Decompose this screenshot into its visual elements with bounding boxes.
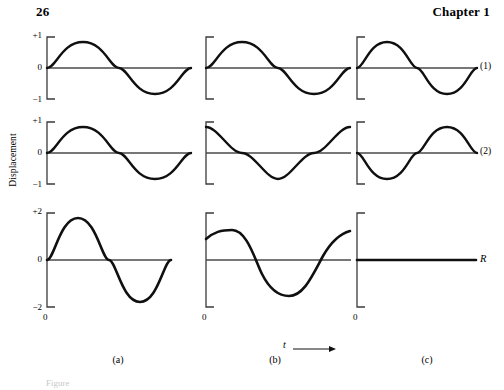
tick-label-top: +1	[20, 115, 42, 125]
plot-a2: +1 0 −1	[46, 121, 198, 189]
y-axis-label: Displacement	[8, 120, 18, 200]
waveform-a2	[46, 121, 198, 189]
running-head: 26 Chapter 1	[0, 4, 504, 26]
waveform-a1	[46, 36, 198, 104]
waveform-b1	[205, 36, 357, 104]
plot-b1	[205, 36, 357, 104]
column-caption-a: (a)	[98, 354, 138, 365]
waveform-b2	[205, 121, 357, 189]
origin-label: 0	[43, 312, 48, 322]
curve-tag-resultant: R	[480, 253, 486, 264]
t-axis-letter: t	[283, 339, 286, 350]
plot-aR: +2 0 −2 0	[46, 212, 198, 312]
page-number: 26	[36, 4, 49, 20]
plot-c2: (2)	[356, 121, 504, 189]
tick-label-mid: 0	[20, 62, 42, 72]
column-caption-c: (c)	[407, 354, 447, 365]
tick-label-bottom: −1	[20, 94, 42, 104]
origin-label: 0	[202, 312, 207, 322]
column-caption-b: (b)	[255, 354, 295, 365]
tick-label-top: +2	[20, 206, 42, 216]
tick-label-top: +1	[20, 30, 42, 40]
chapter-title: Chapter 1	[432, 4, 490, 20]
tick-label-bottom: −2	[20, 302, 42, 312]
curve-tag-1: (1)	[480, 61, 491, 71]
figure-caption-remnant: Figure	[46, 378, 70, 388]
plot-a1: +1 0 −1	[46, 36, 198, 104]
plot-bR: 0	[205, 212, 357, 312]
waveform-bR	[205, 212, 357, 312]
waveform-aR	[46, 212, 198, 312]
plot-c1: (1)	[356, 36, 504, 104]
t-axis: t	[283, 340, 343, 354]
tick-label-bottom: −1	[20, 179, 42, 189]
origin-label: 0	[353, 312, 358, 322]
right-arrow-icon	[293, 345, 337, 353]
tick-label-mid: 0	[20, 254, 42, 264]
textbook-page: 26 Chapter 1 Displacement +1 0 −1	[0, 0, 504, 390]
plot-cR: 0 R	[356, 212, 504, 312]
plot-b2	[205, 121, 357, 189]
tick-label-mid: 0	[20, 147, 42, 157]
curve-tag-2: (2)	[480, 146, 491, 156]
